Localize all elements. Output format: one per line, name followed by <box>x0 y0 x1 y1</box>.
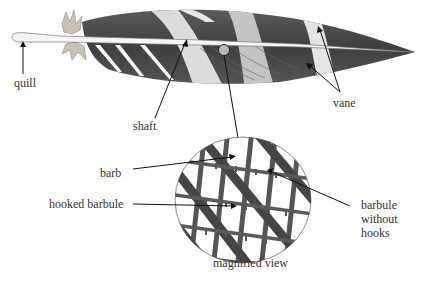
label-barb: barb <box>100 167 121 180</box>
label-shaft: shaft <box>133 120 156 133</box>
label-barbule-without-hooks-line1: barbule <box>361 199 397 212</box>
label-barbule-without-hooks-line2: without <box>361 213 398 226</box>
label-magnified-view: magnified view <box>213 257 288 270</box>
vane-body <box>82 6 415 90</box>
magnify-marker <box>219 45 230 56</box>
feather-diagram: quill shaft vane barb hooked barbule bar… <box>0 0 427 282</box>
label-vane: vane <box>333 97 356 110</box>
label-quill: quill <box>14 77 36 90</box>
label-hooked-barbule: hooked barbule <box>49 198 123 211</box>
down-fluff <box>62 10 86 60</box>
label-barbule-without-hooks-line3: hooks <box>361 227 390 240</box>
